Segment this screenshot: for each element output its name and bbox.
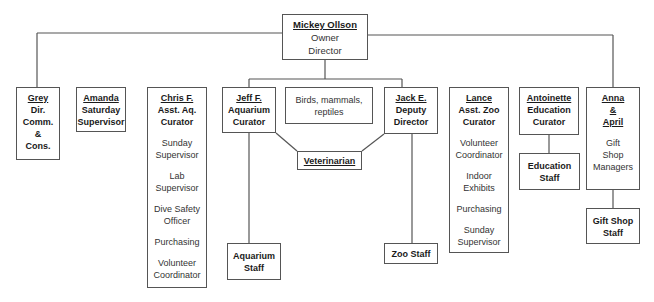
node-title: Director [385,116,437,128]
node-title: Curator [148,116,206,128]
duty: Shop [587,149,639,161]
node-gift-shop-staff: Gift Shop Staff [586,208,640,244]
node-jack-e: Jack E. Deputy Director [384,87,438,134]
node-name: Chris F. [148,92,206,104]
node-veterinarian: Veterinarian [297,151,362,170]
node-name: Lance [450,92,508,104]
duty: Managers [587,161,639,173]
node-chris-f: Chris F. Asst. Aq. Curator Sunday Superv… [147,87,207,288]
node-title: Aquarium [223,104,275,116]
node-name: Anna [587,92,639,104]
duty: Sunday [450,224,508,236]
node-title: Director [283,44,367,57]
node-title: Dir. [17,104,59,116]
duty: Volunteer [450,137,508,149]
node-grey: Grey Dir. Comm. & Cons. [16,87,60,160]
node-title: Saturday [77,104,125,116]
node-title: Deputy [385,104,437,116]
node-title: Curator [450,116,508,128]
duty: Exhibits [450,182,508,194]
duty: Supervisor [148,182,206,194]
node-title: & [17,128,59,140]
node-name: Grey [17,92,59,104]
duty: Supervisor [148,149,206,161]
node-amanda: Amanda Saturday Supervisor [76,87,126,132]
node-title: Education [520,160,579,172]
duty: Supervisor [450,236,508,248]
node-title: Owner [283,31,367,44]
node-name: Jack E. [385,92,437,104]
node-title: Gift Shop [587,215,639,227]
duty: Gift [587,137,639,149]
node-title: Curator [223,116,275,128]
node-title: Aquarium [228,250,280,262]
node-title: Asst. Zoo [450,104,508,116]
node-name: April [587,116,639,128]
duty: Indoor [450,170,508,182]
node-title: Asst. Aq. [148,104,206,116]
duty: Volunteer [148,257,206,269]
duty: Purchasing [148,236,206,248]
node-antoinette: Antoinette Education Curator [519,87,579,135]
node-mickey-ollson: Mickey Ollson Owner Director [282,14,368,60]
duty: Officer [148,215,206,227]
duty: Dive Safety [148,203,206,215]
node-aquarium-staff: Aquarium Staff [227,243,281,280]
node-title: Staff [587,227,639,239]
duty: Coordinator [450,149,508,161]
node-title: Staff [520,172,579,184]
node-name: Mickey Ollson [283,18,367,31]
node-birds-mammals-reptiles: Birds, mammals, reptiles [285,87,373,124]
node-name: & [587,104,639,116]
duty: Coordinator [148,269,206,281]
node-name: Antoinette [520,92,578,104]
node-title: reptiles [286,106,372,118]
node-title: Education [520,104,578,116]
node-lance: Lance Asst. Zoo Curator Volunteer Coordi… [449,87,509,253]
node-title: Supervisor [77,116,125,128]
duty: Lab [148,170,206,182]
duty: Sunday [148,137,206,149]
node-name: Amanda [77,92,125,104]
node-title: Birds, mammals, [286,94,372,106]
node-title: Zoo Staff [385,248,437,260]
node-anna-april: Anna & April Gift Shop Managers [586,87,640,190]
node-education-staff: Education Staff [519,153,580,190]
node-name: Jeff F. [223,92,275,104]
node-name: Veterinarian [298,155,361,167]
node-title: Comm. [17,116,59,128]
node-title: Cons. [17,140,59,152]
node-jeff-f: Jeff F. Aquarium Curator [222,87,276,133]
node-zoo-staff: Zoo Staff [384,243,438,264]
duty: Purchasing [450,203,508,215]
node-title: Staff [228,262,280,274]
node-title: Curator [520,116,578,128]
